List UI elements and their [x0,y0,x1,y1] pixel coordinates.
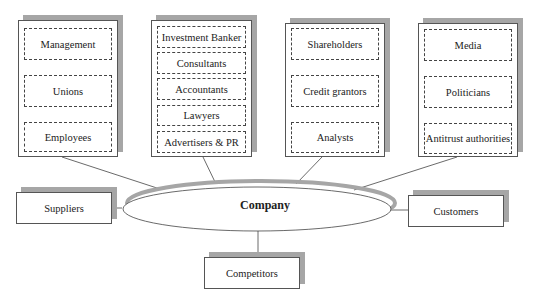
node-investment-banker: Investment Banker [157,26,246,48]
node-analysts: Analysts [291,122,379,153]
node-media: Media [424,29,512,61]
node-consultants: Consultants [157,52,246,74]
node-politicians: Politicians [424,76,512,108]
node-advertisers-pr: Advertisers & PR [157,131,246,153]
node-customers: Customers [408,195,504,227]
stakeholder-group-advisors: Investment Banker Consultants Accountant… [151,20,252,157]
node-shareholders: Shareholders [291,28,379,60]
node-credit-grantors: Credit grantors [291,75,379,107]
node-suppliers: Suppliers [16,192,112,224]
node-management: Management [24,28,112,60]
node-employees: Employees [24,122,112,152]
stakeholder-group-public: Media Politicians Antitrust authorities [418,23,518,157]
node-unions: Unions [24,75,112,107]
node-antitrust-authorities: Antitrust authorities [424,123,512,154]
node-accountants: Accountants [157,78,246,100]
node-competitors: Competitors [204,257,300,289]
center-company-label: Company [200,198,330,213]
node-lawyers: Lawyers [157,105,246,126]
stakeholder-group-financial: Shareholders Credit grantors Analysts [285,23,385,157]
stakeholder-group-internal: Management Unions Employees [18,20,118,157]
